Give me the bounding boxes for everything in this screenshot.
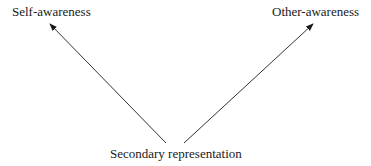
- arrow-to-self-awareness: [50, 24, 166, 143]
- diagram-canvas: Self-awareness Other-awareness Secondary…: [0, 0, 371, 166]
- arrows-layer: [0, 0, 371, 166]
- node-other-awareness: Other-awareness: [272, 4, 359, 19]
- node-self-awareness: Self-awareness: [12, 4, 91, 19]
- arrow-to-other-awareness: [184, 24, 313, 143]
- node-secondary-representation: Secondary representation: [110, 146, 242, 161]
